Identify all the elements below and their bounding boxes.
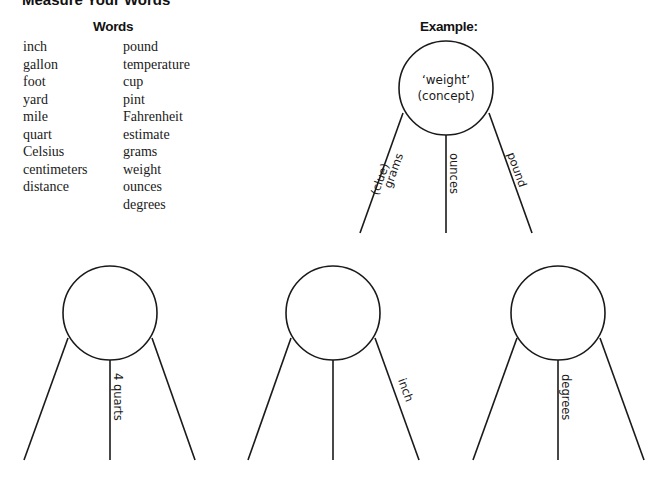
diagram-3-center-label: degrees [559, 374, 573, 420]
example-concept-word: ‘weight’ [422, 73, 470, 87]
concept-circle[interactable] [286, 266, 380, 360]
diagram-1-center-label: 4 quarts [111, 373, 125, 421]
example-concept-note: (concept) [417, 89, 474, 103]
example-concept-circle [399, 41, 493, 135]
example-center-label: ounces [447, 153, 461, 194]
example-right-label: pound [504, 150, 530, 189]
right-line [600, 338, 644, 460]
diagram-2-right-label: inch [395, 376, 416, 403]
diagram-2 [248, 266, 419, 460]
diagram-1 [24, 266, 195, 460]
left-line [248, 338, 291, 460]
right-line [152, 338, 195, 460]
left-line [24, 338, 68, 460]
left-line [473, 338, 517, 460]
concept-circle[interactable] [511, 266, 605, 360]
diagram-3 [473, 266, 644, 460]
concept-diagrams: ‘weight’ (concept) (clue) grams ounces p… [0, 0, 667, 486]
example-diagram [360, 41, 532, 233]
concept-circle[interactable] [63, 266, 157, 360]
